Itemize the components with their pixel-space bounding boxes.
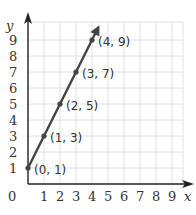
x-tick-label: 7 xyxy=(136,189,144,204)
y-axis-label: y xyxy=(5,18,14,33)
line-chart: 0123456789123456789 (0, 1)(1, 3)(2, 5)(3… xyxy=(0,0,196,215)
y-tick-label: 8 xyxy=(9,49,17,64)
y-tick-label: 9 xyxy=(9,33,17,48)
y-tick-label: 2 xyxy=(9,145,17,160)
point-label: (4, 9) xyxy=(98,35,130,49)
point-label: (3, 7) xyxy=(82,67,114,81)
y-tick-label: 6 xyxy=(9,81,17,96)
x-axis-label: x xyxy=(184,189,192,204)
data-point xyxy=(57,101,62,106)
x-tick-label: 8 xyxy=(152,189,160,204)
x-tick-label: 6 xyxy=(120,189,128,204)
point-label: (1, 3) xyxy=(50,131,82,145)
data-series xyxy=(25,25,99,170)
y-tick-label: 5 xyxy=(9,97,17,112)
point-label: (0, 1) xyxy=(34,163,66,177)
y-tick-label: 4 xyxy=(9,113,17,128)
y-tick-label: 7 xyxy=(9,65,17,80)
x-tick-label: 4 xyxy=(88,189,96,204)
x-tick-label: 0 xyxy=(8,189,16,204)
x-tick-label: 3 xyxy=(72,189,80,204)
x-tick-label: 9 xyxy=(168,189,176,204)
y-tick-label: 1 xyxy=(9,161,17,176)
data-point xyxy=(25,165,30,170)
data-point xyxy=(89,37,94,42)
x-tick-label: 1 xyxy=(40,189,48,204)
data-point xyxy=(41,133,46,138)
point-label: (2, 5) xyxy=(66,99,98,113)
x-tick-label: 2 xyxy=(56,189,64,204)
data-point xyxy=(73,69,78,74)
x-tick-label: 5 xyxy=(104,189,112,204)
y-tick-label: 3 xyxy=(9,129,17,144)
